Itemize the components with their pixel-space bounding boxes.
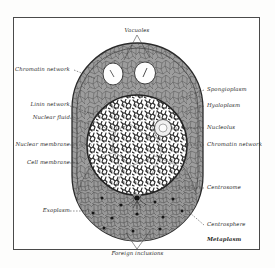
label-nucleolus: Nucleolus [207, 124, 235, 130]
label-chromatin-network-left: Chromatin network [8, 66, 70, 72]
cell-diagram-figure: Vacuoles Chromatin network Linin network… [0, 0, 275, 268]
label-metaplasm: Metaplasm [207, 236, 241, 242]
label-vacuoles: Vacuoles [104, 27, 170, 33]
label-centrosome: Centrosome [207, 184, 241, 190]
label-centrosphere: Centrosphere [207, 221, 246, 227]
cell-illustration [0, 0, 275, 268]
label-linin-network: Linin network [8, 101, 70, 107]
label-nuclear-fluid: Nuclear fluid [8, 114, 70, 120]
vacuole-left [103, 63, 123, 85]
label-spongioplasm: Spongioplasm [207, 86, 247, 92]
label-chromatin-network-right: Chromatin network [207, 141, 262, 147]
label-foreign-inclusions: Foreign inclusions [100, 250, 175, 256]
nucleus [87, 95, 187, 195]
label-exoplasm: Exoplasm [8, 207, 70, 213]
label-hyaloplasm: Hyaloplasm [207, 102, 240, 108]
label-nuclear-membrane: Nuclear membrane [0, 141, 70, 147]
label-cell-membrane: Cell membrane [0, 159, 70, 165]
